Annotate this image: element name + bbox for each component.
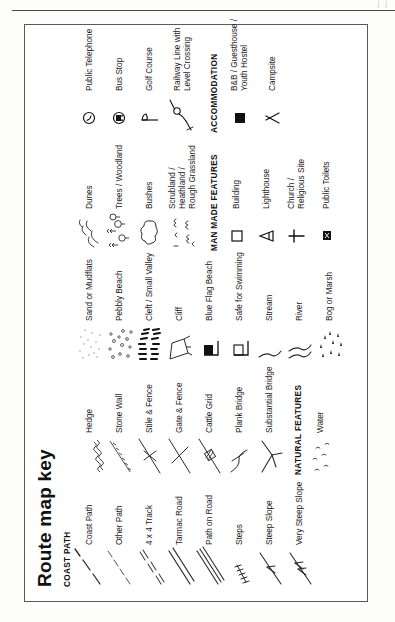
legend-entry: Cliff [164, 251, 194, 363]
legend-entry-label: Plank Bridge [235, 387, 245, 433]
legend-entry-label: Bushes [145, 182, 155, 209]
legend-entry-label: B&B / Guesthouse / Youth Hostel [230, 19, 249, 91]
fine-dashed-path-line-icon [105, 545, 133, 587]
legend-entry: Blue Flag Beach [194, 251, 224, 363]
legend-entry-label: Path on Road [205, 495, 215, 545]
legend-entry: 4 x 4 Track [134, 475, 164, 587]
scrub-tufts-icon [168, 209, 196, 251]
filled-square-accommodation-icon [225, 91, 253, 133]
legend-entry: Substantial Bridge [254, 363, 284, 475]
page-top-rule [12, 10, 395, 11]
legend-entry: Very Steep Slope [284, 475, 314, 587]
legend-entry-label: Cliff [175, 307, 185, 321]
legend-entry: Coast Path [74, 475, 104, 587]
legend-entry: Stream [254, 251, 284, 363]
legend-entry: River [284, 251, 314, 363]
legend-entry-label: Bog or Marsh [325, 272, 335, 321]
legend-entry-label: Trees / Woodland [115, 145, 125, 209]
tent-symbol-icon [258, 91, 286, 133]
section-heading-blank-2 [59, 363, 74, 475]
legend-entry: Public Telephone [74, 15, 104, 133]
river-double-line-icon [285, 321, 313, 363]
dashed-path-line-icon [75, 545, 103, 587]
substantial-bridge-icon [255, 433, 283, 475]
legend-entry: Bushes [134, 133, 164, 251]
legend-entry: Pebbly Beach [104, 251, 134, 363]
triple-solid-road-line-icon [195, 545, 223, 587]
page-corner-mark: | | [377, 0, 389, 7]
section-heading-coast-path: COAST PATH [59, 475, 74, 587]
toilets-symbol-icon [312, 209, 340, 251]
golf-flag-symbol-icon [135, 91, 163, 133]
railway-level-crossing-icon [168, 91, 196, 133]
section-heading-blank-3 [59, 251, 74, 363]
legend-entry-label: Coast Path [85, 504, 95, 545]
section-heading-blank-5 [59, 15, 74, 133]
legend-entry: Building [221, 133, 251, 251]
double-dashed-track-line-icon [135, 545, 163, 587]
hedge-squiggle-line-icon [75, 433, 103, 475]
route-map-key-panel: Route map key COAST PATH Coast Path [24, 24, 368, 602]
legend-entry: Campsite [257, 15, 287, 133]
legend-entry-label: Sand or Mudflats [85, 259, 95, 321]
legend-entry-label: Substantial Bridge [265, 367, 275, 433]
legend-entry: Railway Line with Level Crossing [164, 15, 200, 133]
cleft-hachures-icon [135, 321, 163, 363]
cliff-outline-icon [165, 321, 193, 363]
legend-entry: Path on Road [194, 475, 224, 587]
legend-entry-label: Water [316, 411, 326, 433]
section-heading-man-made-features: MAN MADE FEATURES [206, 133, 221, 251]
legend-entry-label: Hedge [85, 409, 95, 433]
legend-entry-label: Other Path [115, 505, 125, 545]
legend-columns: COAST PATH Coast Path Oth [59, 37, 344, 587]
stream-single-line-icon [255, 321, 283, 363]
legend-entry-label: Safe for Swimming [235, 252, 245, 321]
legend-entry-label: Very Steep Slope [295, 482, 305, 545]
legend-entry: Bus Stop [104, 15, 134, 133]
stile-cross-fence-icon [135, 433, 163, 475]
marsh-tufts-icon [315, 321, 343, 363]
plank-bridge-icon [225, 433, 253, 475]
legend-column-1: COAST PATH Coast Path Oth [59, 475, 314, 587]
legend-entry: Bog or Marsh [314, 251, 344, 363]
steps-ladder-icon [225, 545, 253, 587]
legend-entry-label: Dunes [85, 185, 95, 209]
legend-entry: Other Path [104, 475, 134, 587]
legend-entry: Scrubland / Heathland / Rough Grassland [164, 133, 200, 251]
legend-entry-label: Railway Line with Level Crossing [173, 28, 192, 91]
building-square-icon [222, 209, 250, 251]
legend-entry-label: Stream [265, 295, 275, 321]
legend-column-4: Dunes Trees / Woodland [59, 133, 341, 251]
legend-entry: Safe for Swimming [224, 251, 254, 363]
legend-entry-label: Public Telephone [85, 29, 95, 91]
legend-column-2: Hedge Stone Wall [59, 363, 335, 475]
legend-entry: Stone Wall [104, 363, 134, 475]
legend-entry-label: Pebbly Beach [115, 270, 125, 321]
legend-entry-label: Steep Slope [265, 500, 275, 545]
legend-entry: Tarmac Road [164, 475, 194, 587]
legend-entry: Dunes [74, 133, 104, 251]
legend-entry: Plank Bridge [224, 363, 254, 475]
section-heading-blank-4 [59, 133, 74, 251]
legend-entry: Golf Course [134, 15, 164, 133]
legend-entry-label: River [295, 302, 305, 321]
legend-entry: Hedge [74, 363, 104, 475]
outline-flag-icon [225, 321, 253, 363]
section-heading-accommodation: ACCOMMODATION [206, 15, 221, 133]
legend-entry-label: Stone Wall [115, 394, 125, 433]
legend-entry-label: Church / Religious Site [287, 159, 306, 209]
legend-entry-label: Gate & Fence [175, 382, 185, 433]
pebble-scatter-icon [105, 321, 133, 363]
gate-fence-icon [165, 433, 193, 475]
legend-column-5: Public Telephone Bus Stop [59, 15, 287, 133]
legend-entry-label: Campsite [268, 56, 278, 91]
legend-entry: Steep Slope [254, 475, 284, 587]
legend-entry-label: Golf Course [145, 47, 155, 91]
legend-entry-label: Stile & Fence [145, 384, 155, 433]
legend-entry: Public Toilets [311, 133, 341, 251]
legend-entry-label: Cattle Grid [205, 394, 215, 433]
legend-entry-label: Tarmac Road [175, 496, 185, 545]
legend-entry-label: Blue Flag Beach [205, 261, 215, 321]
single-arrow-slope-icon [255, 545, 283, 587]
page-title: Route map key [35, 37, 56, 587]
